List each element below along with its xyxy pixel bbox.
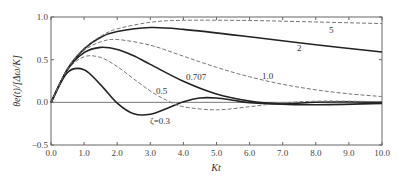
x-tick-label: 10.0: [374, 148, 390, 158]
curve-label: 1.0: [262, 71, 274, 81]
x-tick-label: 3.0: [145, 148, 157, 158]
curve-label: 0.5: [156, 86, 168, 96]
curve-0.707: [51, 47, 382, 104]
chart: 0.01.02.03.04.05.06.07.08.09.010.0−0.50.…: [0, 0, 408, 182]
y-tick-label: 0.0: [37, 97, 49, 107]
x-tick-label: 9.0: [343, 148, 355, 158]
y-tick-label: 0.5: [37, 55, 49, 65]
curve-1.0: [51, 39, 382, 102]
curve-label: ζ=0.3: [150, 116, 171, 126]
x-axis-label: Kt: [210, 162, 221, 173]
curve-2: [51, 27, 382, 102]
y-tick-label: 1.0: [37, 12, 49, 22]
y-axis-label: θe(t)/[Δω/K]: [11, 55, 23, 107]
x-tick-label: 6.0: [244, 148, 256, 158]
x-tick-label: 1.0: [78, 148, 90, 158]
curve-label: 0.707: [186, 72, 207, 82]
x-tick-label: 5.0: [211, 148, 223, 158]
y-tick-label: −0.5: [32, 140, 49, 150]
x-tick-label: 7.0: [277, 148, 289, 158]
curve-label: 2: [297, 43, 302, 53]
curve-label: 5: [329, 25, 334, 35]
axis-ticks: 0.01.02.03.04.05.06.07.08.09.010.0−0.50.…: [32, 12, 391, 158]
curve-labels: ζ=0.30.50.7071.025: [150, 25, 334, 126]
x-tick-label: 4.0: [178, 148, 190, 158]
x-tick-label: 8.0: [310, 148, 322, 158]
x-tick-label: 2.0: [112, 148, 124, 158]
